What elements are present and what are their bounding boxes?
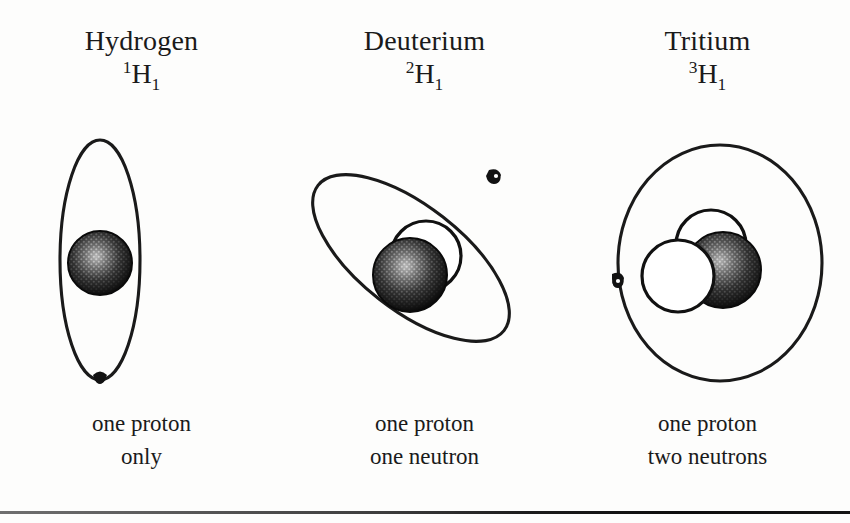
isotope-caption-hydrogen: one proton only bbox=[0, 408, 283, 473]
electron-tritium bbox=[612, 273, 624, 288]
isotope-name-tritium: Tritium bbox=[566, 24, 849, 57]
element-letter-tritium: H bbox=[697, 58, 717, 89]
isotope-title-deuterium: Deuterium 2H1 bbox=[283, 24, 566, 90]
isotope-column-tritium: Tritium 3H1 bbox=[566, 0, 849, 523]
caption-line-2-deuterium: one neutron bbox=[283, 441, 566, 474]
isotope-diagram-figure: Hydrogen 1H1 bbox=[0, 0, 850, 523]
caption-line-1-hydrogen: one proton bbox=[0, 408, 283, 441]
atomic-number-hydrogen: 1 bbox=[152, 75, 161, 94]
atomic-number-tritium: 1 bbox=[718, 75, 727, 94]
isotope-name-deuterium: Deuterium bbox=[283, 24, 566, 57]
element-letter-deuterium: H bbox=[414, 58, 434, 89]
atom-diagram-deuterium bbox=[283, 128, 566, 393]
atom-svg-tritium bbox=[566, 128, 849, 393]
caption-line-2-hydrogen: only bbox=[0, 441, 283, 474]
isotope-caption-deuterium: one proton one neutron bbox=[283, 408, 566, 473]
atom-svg-hydrogen bbox=[0, 128, 283, 393]
element-letter-hydrogen: H bbox=[131, 58, 151, 89]
isotope-title-hydrogen: Hydrogen 1H1 bbox=[0, 24, 283, 90]
isotope-symbol-tritium: 3H1 bbox=[566, 57, 849, 90]
proton-hydrogen bbox=[68, 231, 132, 295]
figure-bottom-rule bbox=[0, 511, 850, 514]
isotope-title-tritium: Tritium 3H1 bbox=[566, 24, 849, 90]
caption-line-1-deuterium: one proton bbox=[283, 408, 566, 441]
isotope-caption-tritium: one proton two neutrons bbox=[566, 408, 849, 473]
atom-diagram-tritium bbox=[566, 128, 849, 393]
caption-line-2-tritium: two neutrons bbox=[566, 441, 849, 474]
isotope-symbol-hydrogen: 1H1 bbox=[0, 57, 283, 90]
proton-deuterium bbox=[373, 238, 447, 312]
caption-line-1-tritium: one proton bbox=[566, 408, 849, 441]
atomic-number-deuterium: 1 bbox=[435, 75, 444, 94]
neutron-front-tritium bbox=[642, 240, 714, 312]
isotope-column-hydrogen: Hydrogen 1H1 bbox=[0, 0, 283, 523]
atom-svg-deuterium bbox=[283, 128, 566, 393]
isotope-name-hydrogen: Hydrogen bbox=[0, 24, 283, 57]
electron-hydrogen bbox=[93, 372, 107, 385]
atom-diagram-hydrogen bbox=[0, 128, 283, 393]
isotope-symbol-deuterium: 2H1 bbox=[283, 57, 566, 90]
electron-deuterium bbox=[486, 169, 501, 184]
isotope-column-deuterium: Deuterium 2H1 bbox=[283, 0, 566, 523]
